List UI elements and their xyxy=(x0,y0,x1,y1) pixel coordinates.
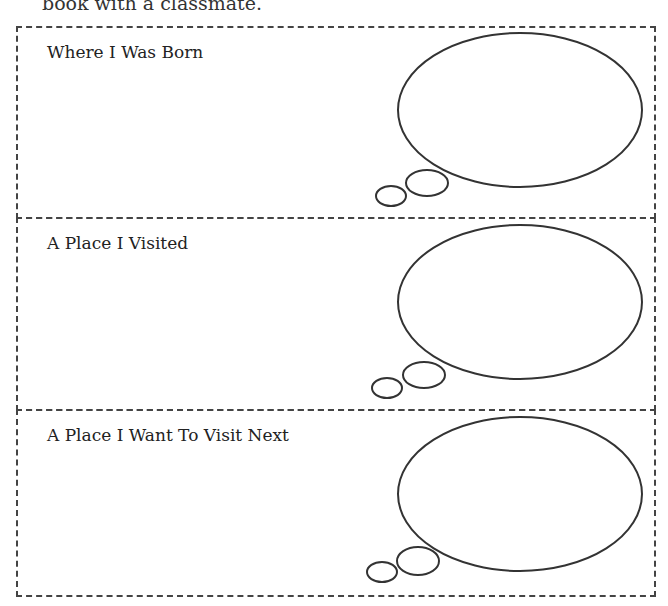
thought-bubble-icon xyxy=(398,33,642,187)
thought-bubble-tiny-icon xyxy=(372,378,402,398)
thought-bubble-icon xyxy=(398,417,642,571)
thought-bubbles xyxy=(0,0,668,606)
thought-bubble-small-icon xyxy=(403,362,445,388)
thought-bubble-tiny-icon xyxy=(367,562,397,582)
thought-bubble-icon xyxy=(398,225,642,379)
thought-bubble-small-icon xyxy=(397,547,439,575)
thought-bubble-tiny-icon xyxy=(376,186,406,206)
thought-bubble-small-icon xyxy=(406,170,448,196)
